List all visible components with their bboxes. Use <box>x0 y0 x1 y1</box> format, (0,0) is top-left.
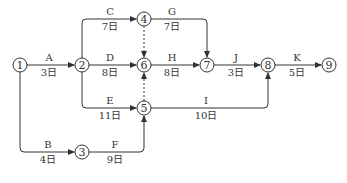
activity-H: H 8日 <box>151 52 199 78</box>
svg-text:E: E <box>106 95 113 106</box>
activity-I: I 10日 <box>151 73 268 121</box>
svg-text:4: 4 <box>141 13 148 26</box>
activity-K: K 5日 <box>275 52 321 78</box>
svg-text:11日: 11日 <box>99 110 122 121</box>
svg-text:7日: 7日 <box>164 21 180 32</box>
svg-text:H: H <box>168 52 177 63</box>
svg-text:7日: 7日 <box>102 21 118 32</box>
svg-text:I: I <box>204 95 208 106</box>
svg-text:D: D <box>106 52 114 63</box>
svg-text:8: 8 <box>265 59 272 72</box>
svg-text:3日: 3日 <box>228 67 244 78</box>
svg-text:G: G <box>168 6 176 17</box>
svg-text:7: 7 <box>204 59 211 72</box>
network-diagram: A 3日 B 4日 C 7日 D 8日 E 11日 F 9日 G 7日 H <box>0 0 347 183</box>
activity-F: F 9日 <box>89 116 144 165</box>
node-1: 1 <box>13 58 27 72</box>
activity-B: B 4日 <box>20 72 74 165</box>
svg-text:8日: 8日 <box>102 67 118 78</box>
activity-J: J 3日 <box>214 52 260 78</box>
activity-G: G 7日 <box>151 6 207 57</box>
svg-text:8日: 8日 <box>164 67 180 78</box>
activity-C: C 7日 <box>82 6 136 58</box>
node-4: 4 <box>137 12 151 26</box>
node-9: 9 <box>322 58 336 72</box>
svg-text:C: C <box>106 6 114 17</box>
node-6: 6 <box>137 58 151 72</box>
svg-text:B: B <box>44 139 51 150</box>
node-2: 2 <box>75 58 89 72</box>
node-7: 7 <box>200 58 214 72</box>
activity-D: D 8日 <box>89 52 136 78</box>
svg-text:K: K <box>293 52 301 63</box>
svg-text:4日: 4日 <box>40 154 56 165</box>
svg-text:1: 1 <box>17 59 24 72</box>
node-3: 3 <box>75 145 89 159</box>
svg-text:3: 3 <box>79 146 86 159</box>
svg-text:A: A <box>44 52 53 63</box>
svg-text:6: 6 <box>141 59 148 72</box>
node-8: 8 <box>261 58 275 72</box>
svg-text:J: J <box>233 52 238 63</box>
svg-text:9: 9 <box>326 59 333 72</box>
activity-A: A 3日 <box>27 52 74 78</box>
svg-text:9日: 9日 <box>107 154 123 165</box>
svg-text:2: 2 <box>79 59 86 72</box>
svg-text:F: F <box>112 139 119 150</box>
svg-text:3日: 3日 <box>41 67 57 78</box>
node-5: 5 <box>137 101 151 115</box>
svg-text:5: 5 <box>141 102 148 115</box>
svg-text:5日: 5日 <box>289 67 305 78</box>
activity-E: E 11日 <box>82 72 136 121</box>
svg-text:10日: 10日 <box>195 110 218 121</box>
